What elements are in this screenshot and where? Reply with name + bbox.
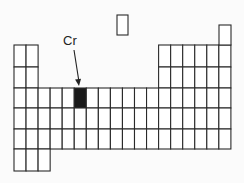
- element-cell: [86, 88, 98, 108]
- element-cell: [171, 45, 183, 67]
- element-cell: [195, 67, 207, 88]
- element-cell: [26, 45, 38, 67]
- element-cell: [195, 129, 207, 149]
- element-cell: [207, 45, 219, 67]
- element-cell: [159, 129, 171, 149]
- element-cell: [171, 108, 183, 129]
- element-cell: [98, 129, 110, 149]
- element-cell: [183, 108, 195, 129]
- element-cell: [62, 108, 74, 129]
- element-cell: [122, 88, 134, 108]
- element-cell: [207, 129, 219, 149]
- element-cell: [38, 108, 50, 129]
- element-cell: [219, 45, 231, 67]
- element-cell: [183, 67, 195, 88]
- pointer-arrow: [74, 50, 79, 82]
- element-cell: [147, 108, 159, 129]
- element-cell: [38, 129, 50, 149]
- element-cell: [26, 149, 38, 171]
- arrowhead-icon: [75, 79, 81, 86]
- element-cell: [147, 88, 159, 108]
- element-cell: [159, 45, 171, 67]
- element-cell: [38, 149, 50, 171]
- element-cell: [38, 88, 50, 108]
- element-cell: [62, 129, 74, 149]
- element-cell: [110, 129, 122, 149]
- element-label-cr: Cr: [63, 33, 77, 48]
- element-cell: [183, 88, 195, 108]
- element-cell: [159, 108, 171, 129]
- element-cell: [219, 88, 231, 108]
- periodic-table-diagram: Cr: [0, 0, 244, 183]
- element-cell: [50, 108, 62, 129]
- element-cell: [135, 129, 147, 149]
- element-cell: [26, 88, 38, 108]
- element-cell: [14, 88, 26, 108]
- element-cell: [171, 129, 183, 149]
- element-cell: [122, 129, 134, 149]
- element-cell: [195, 108, 207, 129]
- element-cell: [219, 129, 231, 149]
- hydrogen-box: [117, 15, 128, 35]
- element-cell: [26, 67, 38, 88]
- element-cell: [219, 108, 231, 129]
- element-cell: [159, 88, 171, 108]
- element-cell: [147, 129, 159, 149]
- element-cell: [207, 108, 219, 129]
- element-cell: [207, 67, 219, 88]
- element-cell: [14, 45, 26, 67]
- element-cell: [14, 108, 26, 129]
- element-cell: [183, 45, 195, 67]
- element-cell: [171, 88, 183, 108]
- element-cell: [195, 45, 207, 67]
- periodic-table-grid: [14, 45, 231, 171]
- element-cell: [14, 67, 26, 88]
- element-cell: [14, 129, 26, 149]
- element-cell: [122, 108, 134, 129]
- element-cell: [219, 67, 231, 88]
- element-cell: [74, 129, 86, 149]
- element-cell: [159, 67, 171, 88]
- element-cell: [110, 108, 122, 129]
- element-cell: [98, 108, 110, 129]
- element-cell: [50, 129, 62, 149]
- element-cell: [14, 149, 26, 171]
- element-cell: [135, 88, 147, 108]
- element-cell: [110, 88, 122, 108]
- element-cell: [171, 67, 183, 88]
- element-cell: [195, 88, 207, 108]
- element-cell: [50, 88, 62, 108]
- element-cell: [98, 88, 110, 108]
- element-cell: [74, 108, 86, 129]
- element-cell: [207, 88, 219, 108]
- element-cell: [26, 108, 38, 129]
- helium-box: [219, 25, 231, 45]
- element-cell: [86, 129, 98, 149]
- element-cell: [135, 108, 147, 129]
- element-cell: [183, 129, 195, 149]
- element-cell-cr: [74, 88, 86, 108]
- element-cell: [86, 108, 98, 129]
- element-cell: [26, 129, 38, 149]
- element-cell: [62, 88, 74, 108]
